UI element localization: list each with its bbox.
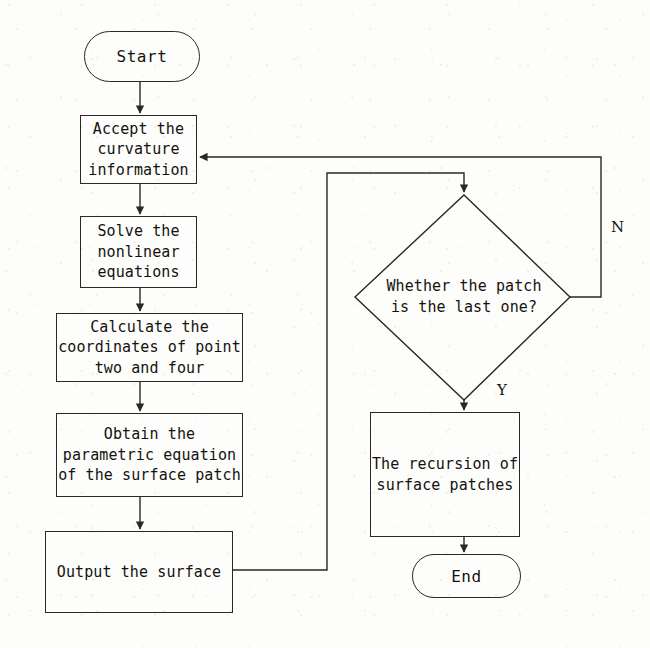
node-obtain-parametric-equation-label: Obtain the parametric equation of the su… [58, 424, 241, 486]
node-solve-equations-label: Solve the nonlinear equations [97, 221, 179, 283]
edge-label-no: N [611, 218, 624, 236]
edge-label-yes: Y [497, 381, 507, 399]
node-output-surface-label: Output the surface [57, 562, 221, 583]
node-accept-curvature[interactable]: Accept the curvature information [80, 115, 197, 184]
node-calculate-coordinates-label: Calculate the coordinates of point two a… [58, 317, 241, 379]
node-decision-last-patch-label: Whether the patch is the last one? [386, 276, 541, 318]
node-decision-last-patch[interactable]: Whether the patch is the last one? [366, 272, 562, 322]
node-recursion-surface-patches[interactable]: The recursion of surface patches [370, 412, 520, 537]
node-accept-curvature-label: Accept the curvature information [88, 119, 188, 181]
flowchart-canvas: Start Accept the curvature information S… [0, 0, 650, 648]
node-solve-equations[interactable]: Solve the nonlinear equations [80, 216, 197, 288]
node-start[interactable]: Start [84, 31, 200, 82]
node-end[interactable]: End [412, 554, 521, 598]
node-end-label: End [451, 567, 482, 586]
node-output-surface[interactable]: Output the surface [45, 531, 233, 613]
node-start-label: Start [116, 47, 167, 66]
node-obtain-parametric-equation[interactable]: Obtain the parametric equation of the su… [56, 413, 243, 497]
node-recursion-surface-patches-label: The recursion of surface patches [372, 454, 518, 495]
node-calculate-coordinates[interactable]: Calculate the coordinates of point two a… [56, 313, 243, 382]
